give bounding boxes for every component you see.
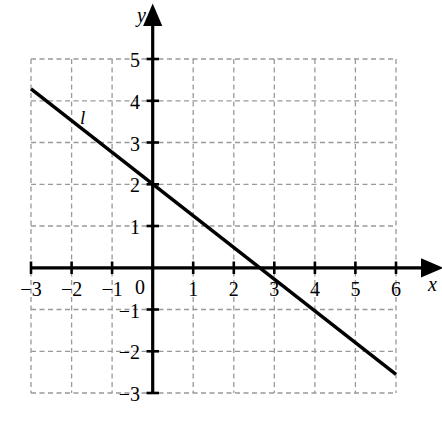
origin-label: 0: [120, 277, 160, 297]
y-tick-label-2: 2: [102, 175, 140, 195]
y-tick-label-neg3: −3: [96, 384, 140, 404]
y-tick-label-4: 4: [102, 92, 140, 112]
graph-canvas: [0, 0, 442, 422]
x-tick-label-2: 2: [214, 279, 254, 299]
horizontal-gridlines: [31, 59, 396, 393]
y-tick-label-1: 1: [102, 217, 140, 237]
y-tick-label-5: 5: [102, 50, 140, 70]
y-tick-label-3: 3: [102, 134, 140, 154]
y-tick-label-neg2: −2: [96, 342, 140, 362]
x-axis-label: x: [428, 274, 437, 294]
line-label-l: l: [80, 108, 85, 127]
y-axis-label: y: [137, 5, 146, 25]
x-tick-label-4: 4: [295, 279, 335, 299]
x-tick-label-1: 1: [173, 279, 213, 299]
x-tick-label-neg2: −2: [52, 279, 92, 299]
x-tick-label-5: 5: [335, 279, 375, 299]
x-tick-label-3: 3: [254, 279, 294, 299]
coordinate-plane-figure: y x l −3 −2 −1 0 1 2 3 4 5 6 5 4 3 2 1 −…: [0, 0, 442, 422]
plotted-line-l: [31, 89, 396, 375]
y-tick-label-neg1: −1: [96, 301, 140, 321]
x-tick-label-neg3: −3: [11, 279, 51, 299]
x-tick-label-6: 6: [376, 279, 416, 299]
